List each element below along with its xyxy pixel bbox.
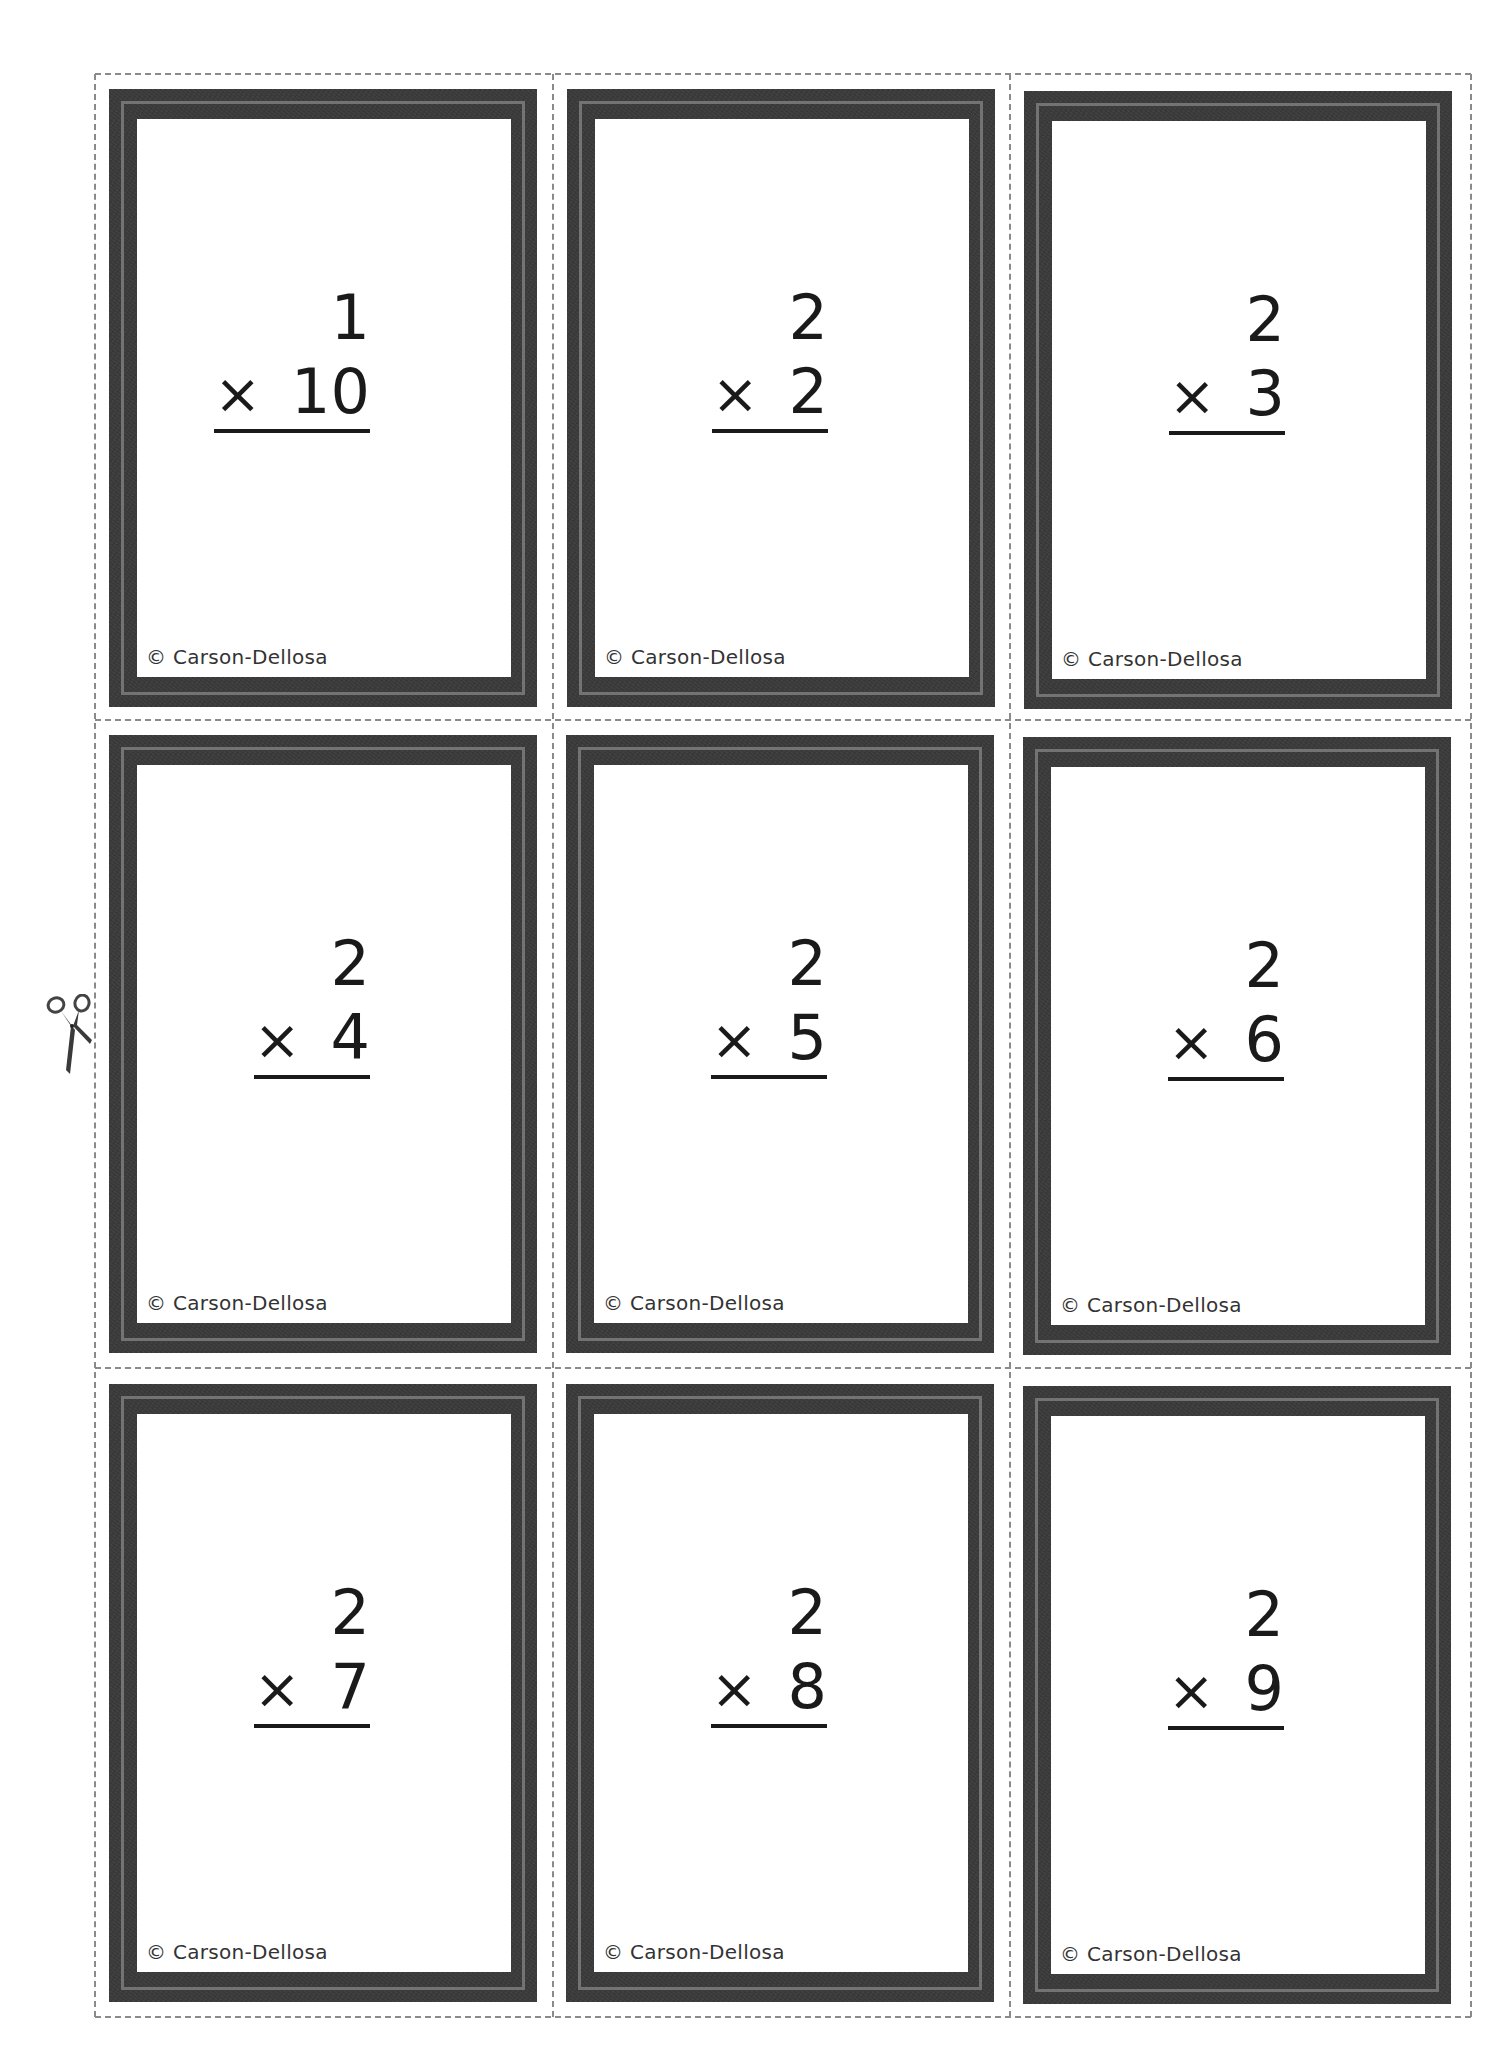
copyright-label: © Carson-Dellosa — [146, 645, 328, 669]
card-face: 2 ×5 © Carson-Dellosa — [594, 765, 968, 1323]
cut-line-horizontal — [95, 1367, 1471, 1369]
bottom-factor-line: ×4 — [254, 1003, 370, 1079]
bottom-factor: 2 — [789, 355, 828, 428]
bottom-factor-line: ×10 — [214, 357, 370, 433]
card-face: 2 ×4 © Carson-Dellosa — [137, 765, 511, 1323]
times-operator: × — [1169, 361, 1216, 431]
times-operator: × — [711, 1005, 758, 1075]
flash-card: 1 ×10 © Carson-Dellosa — [109, 89, 537, 707]
bottom-factor-line: ×7 — [254, 1652, 370, 1728]
top-factor: 2 — [1168, 927, 1284, 1005]
multiplication-problem: 2 ×2 — [712, 279, 828, 433]
times-operator: × — [214, 359, 261, 429]
copyright-label: © Carson-Dellosa — [146, 1291, 328, 1315]
times-operator: × — [1168, 1007, 1215, 1077]
card-face: 2 ×7 © Carson-Dellosa — [137, 1414, 511, 1972]
cut-line-horizontal — [95, 2016, 1471, 2018]
cut-line-horizontal — [95, 719, 1471, 721]
flash-card: 2 ×8 © Carson-Dellosa — [566, 1384, 994, 2002]
bottom-factor-line: ×9 — [1168, 1654, 1284, 1730]
multiplication-problem: 2 ×4 — [254, 925, 370, 1079]
scissors-icon — [44, 994, 96, 1078]
copyright-label: © Carson-Dellosa — [146, 1940, 328, 1964]
bottom-factor-line: ×5 — [711, 1003, 827, 1079]
card-face: 1 ×10 © Carson-Dellosa — [137, 119, 511, 677]
flash-card: 2 ×3 © Carson-Dellosa — [1024, 91, 1452, 709]
top-factor: 1 — [214, 279, 370, 357]
flash-card: 2 ×7 © Carson-Dellosa — [109, 1384, 537, 2002]
flash-card: 2 ×4 © Carson-Dellosa — [109, 735, 537, 1353]
copyright-label: © Carson-Dellosa — [604, 645, 786, 669]
top-factor: 2 — [254, 1574, 370, 1652]
bottom-factor-line: ×8 — [711, 1652, 827, 1728]
cut-line-horizontal — [95, 73, 1471, 75]
top-factor: 2 — [711, 925, 827, 1003]
cut-line-vertical — [1009, 74, 1011, 2017]
bottom-factor: 9 — [1245, 1652, 1284, 1725]
multiplication-problem: 2 ×8 — [711, 1574, 827, 1728]
flash-card: 2 ×5 © Carson-Dellosa — [566, 735, 994, 1353]
card-face: 2 ×6 © Carson-Dellosa — [1051, 767, 1425, 1325]
cut-line-vertical — [1470, 74, 1472, 2017]
bottom-factor: 5 — [788, 1001, 827, 1074]
times-operator: × — [1168, 1656, 1215, 1726]
copyright-label: © Carson-Dellosa — [1060, 1942, 1242, 1966]
times-operator: × — [712, 359, 759, 429]
bottom-factor: 6 — [1245, 1003, 1284, 1076]
bottom-factor-line: ×2 — [712, 357, 828, 433]
card-face: 2 ×9 © Carson-Dellosa — [1051, 1416, 1425, 1974]
top-factor: 2 — [712, 279, 828, 357]
top-factor: 2 — [1169, 281, 1285, 359]
copyright-label: © Carson-Dellosa — [603, 1940, 785, 1964]
cut-line-vertical — [552, 74, 554, 2017]
bottom-factor: 7 — [331, 1650, 370, 1723]
flash-card: 2 ×9 © Carson-Dellosa — [1023, 1386, 1451, 2004]
times-operator: × — [254, 1654, 301, 1724]
bottom-factor-line: ×3 — [1169, 359, 1285, 435]
bottom-factor: 8 — [788, 1650, 827, 1723]
card-face: 2 ×8 © Carson-Dellosa — [594, 1414, 968, 1972]
copyright-label: © Carson-Dellosa — [1060, 1293, 1242, 1317]
top-factor: 2 — [711, 1574, 827, 1652]
multiplication-problem: 2 ×9 — [1168, 1576, 1284, 1730]
copyright-label: © Carson-Dellosa — [1061, 647, 1243, 671]
bottom-factor: 4 — [331, 1001, 370, 1074]
flash-card: 2 ×2 © Carson-Dellosa — [567, 89, 995, 707]
multiplication-problem: 2 ×5 — [711, 925, 827, 1079]
flash-card: 2 ×6 © Carson-Dellosa — [1023, 737, 1451, 1355]
times-operator: × — [254, 1005, 301, 1075]
times-operator: × — [711, 1654, 758, 1724]
bottom-factor: 3 — [1246, 357, 1285, 430]
bottom-factor: 10 — [291, 355, 370, 428]
multiplication-problem: 1 ×10 — [214, 279, 370, 433]
multiplication-problem: 2 ×7 — [254, 1574, 370, 1728]
card-face: 2 ×2 © Carson-Dellosa — [595, 119, 969, 677]
flash-card-sheet: 1 ×10 © Carson-Dellosa 2 ×2 © Carson-Del… — [0, 0, 1494, 2072]
card-face: 2 ×3 © Carson-Dellosa — [1052, 121, 1426, 679]
top-factor: 2 — [254, 925, 370, 1003]
bottom-factor-line: ×6 — [1168, 1005, 1284, 1081]
top-factor: 2 — [1168, 1576, 1284, 1654]
multiplication-problem: 2 ×6 — [1168, 927, 1284, 1081]
multiplication-problem: 2 ×3 — [1169, 281, 1285, 435]
copyright-label: © Carson-Dellosa — [603, 1291, 785, 1315]
